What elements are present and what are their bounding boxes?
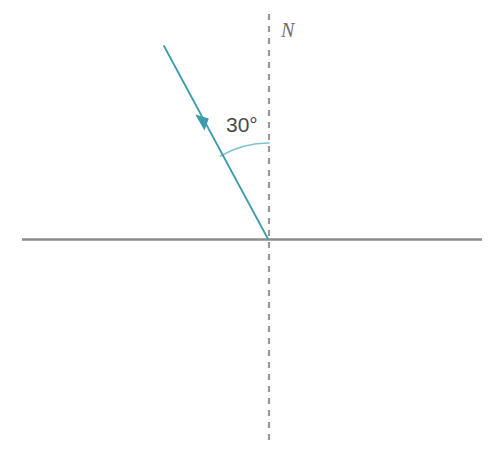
angle-arc <box>221 143 270 156</box>
ray-arrowhead-icon <box>195 115 209 131</box>
angle-label: 30° <box>226 113 258 136</box>
bearing-diagram: 30° N <box>0 0 500 463</box>
north-label: N <box>280 19 296 41</box>
direction-ray <box>164 46 268 239</box>
diagram-canvas: 30° N <box>0 0 500 463</box>
